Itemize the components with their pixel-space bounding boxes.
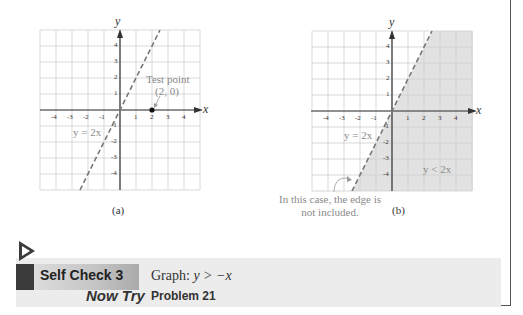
y-tick-label: 2 bbox=[386, 74, 390, 82]
y-tick-label: -1 bbox=[383, 122, 389, 130]
y-tick-label: -4 bbox=[111, 169, 117, 177]
self-check-tab bbox=[16, 264, 34, 290]
y-tick-label: 3 bbox=[114, 57, 118, 65]
axis-label-x-b: x bbox=[476, 103, 481, 118]
x-tick-label: -1 bbox=[371, 114, 377, 122]
self-check-arrow-icon bbox=[16, 239, 38, 265]
y-tick-label: -2 bbox=[383, 138, 389, 146]
x-tick-label: 2 bbox=[422, 114, 426, 122]
edge-note: In this case, the edge is not included. bbox=[278, 193, 382, 219]
x-tick-label: 4 bbox=[454, 114, 458, 122]
textbook-page: -4-3-2-112344321-1-2-3-4-4-3-2-112344321… bbox=[0, 0, 523, 315]
now-try-label: Now Try bbox=[86, 287, 145, 304]
y-tick-label: 3 bbox=[386, 58, 390, 66]
test-point-coords: (2, 0) bbox=[155, 85, 179, 98]
axis-label-y-b: y bbox=[389, 15, 394, 30]
edge-note-line1: In this case, the edge is bbox=[278, 193, 382, 206]
x-tick-label: 2 bbox=[150, 113, 154, 121]
x-tick-label: -4 bbox=[51, 113, 57, 121]
self-check-prompt: Graph: y > −x bbox=[151, 268, 232, 284]
x-tick-label: -2 bbox=[83, 113, 89, 121]
x-tick-label: 3 bbox=[166, 113, 170, 121]
edge-note-line2: not included. bbox=[278, 206, 382, 219]
self-check-prompt-math: y > −x bbox=[193, 268, 231, 283]
y-tick-label: 1 bbox=[114, 89, 118, 97]
x-tick-label: 4 bbox=[182, 113, 186, 121]
page-right-border bbox=[510, 0, 511, 306]
x-tick-label: -3 bbox=[67, 113, 73, 121]
x-tick-label: 1 bbox=[406, 114, 410, 122]
x-tick-label: -1 bbox=[99, 113, 105, 121]
x-tick-label: 1 bbox=[134, 113, 138, 121]
x-tick-label: -4 bbox=[323, 114, 329, 122]
caption-b: (b) bbox=[392, 204, 405, 216]
x-tick-label: -2 bbox=[355, 114, 361, 122]
region-label-b: y < 2x bbox=[423, 163, 451, 176]
y-tick-label: -1 bbox=[111, 121, 117, 129]
line-label-b: y = 2x bbox=[344, 129, 372, 142]
self-check-prompt-prefix: Graph: bbox=[151, 268, 193, 283]
y-tick-label: 2 bbox=[114, 73, 118, 81]
x-tick-label: -3 bbox=[339, 114, 345, 122]
y-tick-label: 4 bbox=[114, 41, 118, 49]
now-try-problem-link[interactable]: Problem 21 bbox=[151, 289, 216, 303]
x-tick-label: 3 bbox=[438, 114, 442, 122]
y-tick-label: 1 bbox=[386, 90, 390, 98]
self-check-label: Self Check 3 bbox=[40, 267, 123, 283]
y-tick-label: -4 bbox=[383, 170, 389, 178]
axis-label-x-a: x bbox=[203, 102, 208, 117]
y-tick-label: 4 bbox=[386, 42, 390, 50]
line-label-a: y = 2x bbox=[73, 126, 101, 139]
caption-a: (a) bbox=[112, 204, 124, 216]
y-tick-label: -3 bbox=[111, 153, 117, 161]
note-pointer-arrow-icon bbox=[347, 176, 352, 182]
y-tick-label: -3 bbox=[383, 154, 389, 162]
y-tick-label: -2 bbox=[111, 137, 117, 145]
axis-label-y-a: y bbox=[115, 14, 120, 29]
